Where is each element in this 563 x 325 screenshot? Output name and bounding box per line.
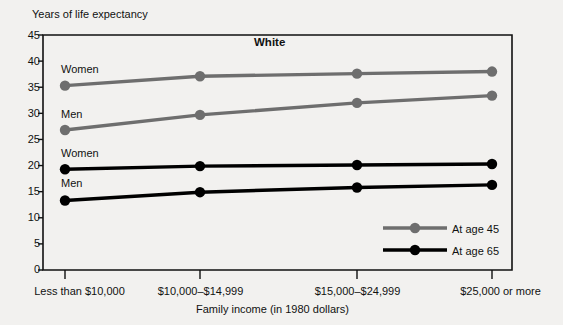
legend-swatch-marker (410, 223, 420, 233)
data-point (352, 68, 362, 78)
data-point (352, 98, 362, 108)
series-line (65, 185, 492, 201)
plot-frame (43, 35, 512, 270)
legend-swatch-marker (410, 245, 420, 255)
data-point (487, 159, 497, 169)
data-point (60, 195, 70, 205)
series-line (65, 72, 492, 86)
data-point (487, 66, 497, 76)
data-point (195, 110, 205, 120)
series-line (65, 96, 492, 130)
data-point (352, 160, 362, 170)
data-point (60, 164, 70, 174)
data-point (60, 80, 70, 90)
chart-figure: Years of life expectancy White Family in… (0, 0, 563, 325)
data-point (487, 90, 497, 100)
data-point (60, 125, 70, 135)
series-line (65, 164, 492, 169)
data-point (195, 187, 205, 197)
data-point (195, 161, 205, 171)
data-point (195, 71, 205, 81)
data-point (352, 182, 362, 192)
data-point (487, 180, 497, 190)
plot-canvas (0, 0, 563, 325)
